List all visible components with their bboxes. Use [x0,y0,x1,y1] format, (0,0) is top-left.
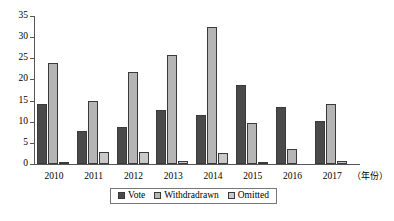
legend-item[interactable]: Withdradrawn [154,191,219,201]
bar[interactable] [207,27,217,164]
legend-swatch-icon [154,192,161,199]
bar[interactable] [88,101,98,164]
legend-item[interactable]: Vote [118,191,145,201]
bar[interactable] [196,115,206,164]
bar[interactable] [128,72,138,164]
x-axis-line [34,164,360,165]
legend-swatch-icon [118,192,125,199]
bar[interactable] [276,107,286,165]
bar-group [193,16,233,164]
bar[interactable] [37,104,47,164]
y-tick-label: 30 [19,32,29,42]
bar[interactable] [139,152,149,164]
bar-group [114,16,154,164]
bar[interactable] [258,162,268,164]
y-tick-label: 10 [19,117,29,127]
bar[interactable] [167,55,177,164]
bar-chart: 05101520253035 2010201120122013201420152… [0,0,394,221]
x-axis-title: （年份） [352,168,388,184]
x-axis-label: 2014 [193,168,233,184]
legend-label: Omitted [238,191,269,201]
bar-group [233,16,273,164]
y-tick-mark [30,164,34,165]
chart-legend: VoteWithdradrawnOmitted [110,188,277,204]
x-axis-label: 2017 [312,168,352,184]
y-tick-label: 0 [23,159,28,169]
bar[interactable] [247,123,257,164]
legend-label: Withdradrawn [164,191,219,201]
bar[interactable] [77,131,87,164]
bar[interactable] [156,110,166,164]
bar[interactable] [218,153,228,164]
y-tick-label: 25 [19,54,29,64]
bar[interactable] [236,85,246,164]
bar[interactable] [178,161,188,164]
bar[interactable] [59,162,69,164]
bar[interactable] [48,63,58,164]
bar-group [74,16,114,164]
bar[interactable] [326,104,336,164]
bar-group [273,16,313,164]
bar[interactable] [99,152,109,164]
bar[interactable] [315,121,325,164]
bar-groups [34,16,352,164]
plot-area: 05101520253035 [34,16,352,164]
bar[interactable] [337,161,347,164]
x-axis-labels: 20102011201220132014201520162017 [34,168,352,184]
x-axis-label: 2012 [114,168,154,184]
y-tick-label: 20 [19,75,29,85]
x-axis-label: 2015 [233,168,273,184]
bar-group [153,16,193,164]
x-axis-label: 2011 [74,168,114,184]
y-tick-label: 15 [19,96,29,106]
bar[interactable] [117,127,127,164]
bar-group [312,16,352,164]
legend-label: Vote [128,191,145,201]
x-axis-label: 2016 [273,168,313,184]
y-tick-label: 5 [23,138,28,148]
legend-swatch-icon [228,192,235,199]
y-tick-label: 35 [19,11,29,21]
bar-group [34,16,74,164]
bar[interactable] [287,149,297,164]
x-axis-label: 2013 [153,168,193,184]
x-axis-label: 2010 [34,168,74,184]
legend-item[interactable]: Omitted [228,191,269,201]
